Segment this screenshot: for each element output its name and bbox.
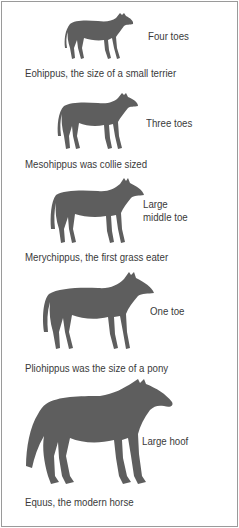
- toe-label: Large: [143, 198, 168, 211]
- toe-label: Four toes: [148, 30, 189, 43]
- stage-caption: Eohippus, the size of a small terrier: [25, 67, 176, 79]
- stage-caption: Pliohippus was the size of a pony: [25, 362, 168, 374]
- toe-label: Large hoof: [142, 435, 188, 448]
- stage-caption: Equus, the modern horse: [25, 496, 134, 508]
- toe-label: Three toes: [146, 117, 192, 130]
- merychippus-silhouette: [48, 175, 148, 247]
- mesohippus-silhouette: [56, 90, 141, 152]
- toe-label: middle toe: [143, 211, 188, 224]
- equus-silhouette: [24, 378, 176, 490]
- stage-caption: Merychippus, the first grass eater: [25, 251, 168, 263]
- toe-label: One toe: [150, 305, 184, 318]
- pliohippus-silhouette: [40, 268, 158, 354]
- stage-caption: Mesohippus was collie sized: [25, 158, 147, 170]
- eohippus-silhouette: [64, 10, 136, 62]
